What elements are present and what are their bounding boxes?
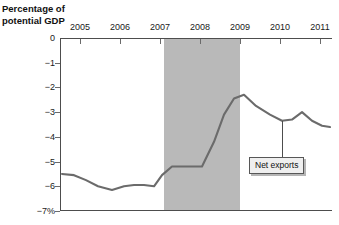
line-series-net-exports xyxy=(62,95,330,190)
net-exports-callout[interactable]: Net exports xyxy=(249,157,304,174)
net-exports-chart: Percentage of potential GDP 200520062007… xyxy=(0,0,339,225)
callout-leader-line xyxy=(282,121,283,157)
series-layer xyxy=(0,0,339,225)
